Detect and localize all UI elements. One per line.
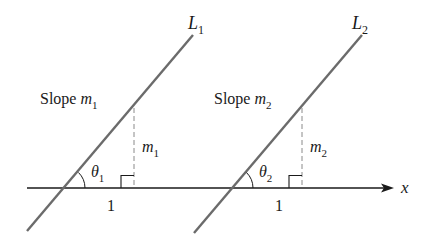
angle-label-2: θ2 (259, 163, 272, 184)
diagram-canvas: x L1 Slope m1 m1 θ1 1 L2 (0, 0, 428, 245)
slope-label-2: Slope m2 (214, 90, 272, 111)
angle-arc-1 (79, 173, 86, 189)
line-l1-label: L1 (187, 13, 204, 37)
line-l2-label: L2 (351, 13, 368, 37)
x-axis-label: x (400, 178, 409, 197)
run-label-1: 1 (107, 197, 115, 214)
rise-label-2: m2 (310, 138, 327, 159)
angle-arc-2 (247, 173, 254, 189)
x-axis (27, 184, 394, 193)
run-label-2: 1 (275, 197, 283, 214)
slope-label-1: Slope m1 (40, 90, 98, 111)
right-angle-marker-1 (121, 176, 134, 189)
angle-label-1: θ1 (91, 163, 104, 184)
right-angle-marker-2 (289, 176, 302, 189)
rise-label-1: m1 (142, 138, 159, 159)
parallel-lines-diagram: x L1 Slope m1 m1 θ1 1 L2 (0, 0, 428, 245)
